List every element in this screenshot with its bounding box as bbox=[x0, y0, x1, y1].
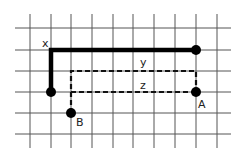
label-z: z bbox=[140, 79, 146, 92]
point-b-dot bbox=[66, 108, 76, 118]
grid-lines bbox=[15, 14, 231, 148]
end-point-x-dot bbox=[191, 45, 201, 55]
label-x: x bbox=[42, 37, 49, 50]
start-point-dot bbox=[46, 87, 56, 97]
label-b: B bbox=[76, 116, 84, 129]
path-points bbox=[46, 45, 201, 118]
label-a: A bbox=[198, 98, 206, 111]
point-a-dot bbox=[191, 87, 201, 97]
grid-diagram: x y z A B bbox=[0, 0, 242, 160]
label-y: y bbox=[140, 56, 147, 69]
